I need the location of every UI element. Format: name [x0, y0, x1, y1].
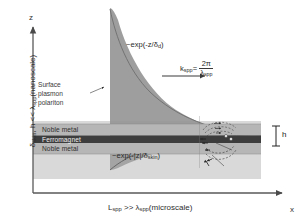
kspp-denominator: λspp [199, 69, 213, 78]
spp-schematic-figure: z x δskin, h << λspp(nanoscale) Lspp >> … [0, 0, 306, 224]
kspp-formula: kspp= 2π λspp [180, 60, 213, 78]
x-axis-letter: x [290, 205, 294, 214]
layer-label-noble-metal-top: Noble metal [42, 126, 78, 134]
x-axis-caption: Lspp >> λspp(microscale) [108, 203, 192, 213]
layer-label-noble-metal-bottom: Noble metal [42, 145, 78, 153]
thickness-label-h: h [282, 130, 286, 139]
spp-leader-line [90, 87, 104, 93]
y-axis-caption-text: δskin, h << λspp(nanoscale) [28, 55, 37, 147]
thickness-bracket-h [272, 126, 280, 146]
spp-annotation: Surface plasmon polariton [38, 81, 63, 108]
y-axis-caption: δskin, h << λspp(nanoscale) [21, 11, 39, 191]
decay-formula-metal: ~exp(-|z|/δskin) [112, 152, 160, 161]
decay-formula-dielectric: ~exp(-z/δd) [126, 41, 163, 50]
layer-label-ferromagnet: Ferromagnet [42, 136, 81, 144]
kspp-fraction: 2π λspp [199, 60, 213, 78]
diagram-canvas [0, 0, 306, 224]
